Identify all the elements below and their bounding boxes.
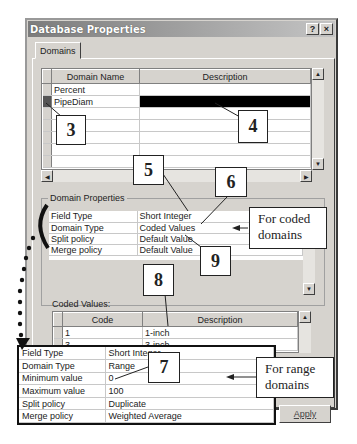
property-name: Domain Type <box>49 222 137 233</box>
table-row[interactable]: Percent <box>43 84 311 96</box>
help-button[interactable]: ? <box>306 23 319 35</box>
tab-domains[interactable]: Domains <box>35 42 81 59</box>
property-name: Field Type <box>49 211 137 222</box>
description-cell-selected[interactable] <box>140 96 311 108</box>
callout-5: 5 <box>133 155 164 185</box>
property-name: Merge policy <box>49 244 137 255</box>
property-row[interactable]: Domain TypeRange <box>19 360 274 373</box>
property-value[interactable]: 100 <box>105 385 274 398</box>
row-selector[interactable] <box>43 120 52 132</box>
description-cell[interactable] <box>140 156 311 168</box>
row-selector[interactable] <box>43 132 52 144</box>
column-header-description[interactable]: Description <box>140 70 311 84</box>
table-row[interactable] <box>43 156 311 168</box>
coded-domains-note: For coded domains <box>249 207 327 249</box>
scroll-left-icon[interactable]: ◀ <box>41 170 53 182</box>
property-row[interactable]: Split policyDuplicate <box>19 397 274 410</box>
property-value[interactable]: Short Integer <box>105 347 274 360</box>
domain-name-cell[interactable]: Percent <box>52 84 140 96</box>
column-header-code[interactable]: Code <box>63 313 143 327</box>
range-properties-overlay: Field TypeShort Integer Domain TypeRange… <box>17 345 276 425</box>
description-cell[interactable]: 1-inch <box>143 327 298 339</box>
property-name: Split policy <box>19 397 105 410</box>
domain-name-cell[interactable]: PipeDiam <box>52 96 140 108</box>
column-header-domain-name[interactable]: Domain Name <box>52 70 140 84</box>
scroll-right-icon[interactable]: ▶ <box>300 170 312 182</box>
table-row[interactable]: PipeDiam <box>43 96 311 108</box>
callout-8: 8 <box>143 264 174 296</box>
property-value[interactable]: Weighted Average <box>105 410 274 423</box>
callout-3: 3 <box>56 115 86 145</box>
callout-7: 7 <box>148 352 180 383</box>
code-cell[interactable]: 1 <box>63 327 143 339</box>
window-title: Database Properties <box>28 24 146 35</box>
property-row[interactable]: Maximum value100 <box>19 385 274 398</box>
row-selector[interactable] <box>43 144 52 156</box>
scroll-up-icon[interactable]: ▲ <box>299 311 311 323</box>
property-name: Split policy <box>49 233 137 244</box>
callout-9: 9 <box>200 246 231 276</box>
property-row[interactable]: Field TypeShort Integer <box>19 347 274 360</box>
coded-values-label: Coded Values: <box>52 299 110 309</box>
property-value[interactable]: 0 <box>105 372 274 385</box>
domain-properties-label: Domain Properties <box>48 193 127 203</box>
column-header-description[interactable]: Description <box>143 313 298 327</box>
callout-6: 6 <box>215 167 247 197</box>
property-value[interactable]: Duplicate <box>105 397 274 410</box>
property-name: Field Type <box>19 347 105 360</box>
table-row[interactable] <box>43 144 311 156</box>
property-name: Domain Type <box>19 360 105 373</box>
property-name: Maximum value <box>19 385 105 398</box>
property-name: Merge policy <box>19 410 105 423</box>
description-cell[interactable] <box>140 132 311 144</box>
description-cell[interactable] <box>140 120 311 132</box>
apply-button[interactable]: Apply <box>279 405 331 423</box>
description-cell[interactable] <box>140 144 311 156</box>
row-selector[interactable] <box>54 327 63 339</box>
title-bar: Database Properties ? × <box>28 21 335 37</box>
close-button[interactable]: × <box>320 23 333 35</box>
row-selector[interactable] <box>43 108 52 120</box>
domains-horizontal-scrollbar[interactable]: ◀ ▶ <box>41 170 312 182</box>
domain-name-cell[interactable] <box>52 156 140 168</box>
scroll-down-icon[interactable]: ▼ <box>303 283 315 295</box>
row-selector[interactable] <box>43 84 52 96</box>
domain-name-cell[interactable] <box>52 144 140 156</box>
scroll-up-icon[interactable]: ▲ <box>312 68 324 80</box>
table-row[interactable]: 1 1-inch <box>54 327 298 339</box>
domains-vertical-scrollbar[interactable]: ▲ ▼ <box>312 68 324 170</box>
description-cell[interactable] <box>140 84 311 96</box>
property-row[interactable]: Merge policyWeighted Average <box>19 410 274 423</box>
row-selector[interactable] <box>43 156 52 168</box>
range-domains-note: For range domains <box>256 357 334 398</box>
property-name: Minimum value <box>19 372 105 385</box>
description-cell[interactable] <box>140 108 311 120</box>
property-row[interactable]: Minimum value0 <box>19 372 274 385</box>
row-selector[interactable] <box>43 96 52 108</box>
coded-values-vertical-scrollbar[interactable]: ▲ <box>299 311 311 353</box>
callout-4: 4 <box>238 110 268 143</box>
scroll-down-icon[interactable]: ▼ <box>312 158 324 170</box>
property-value[interactable]: Range <box>105 360 274 373</box>
